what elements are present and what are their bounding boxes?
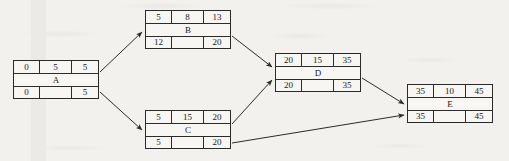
edge-a-to-b: [100, 32, 142, 72]
node-d-bottom-row: 20 35: [276, 80, 360, 91]
node-e-early-finish: 45: [466, 85, 492, 97]
node-e-late-start: 35: [408, 111, 434, 122]
node-b-late-start: 12: [146, 37, 172, 48]
node-a-late-finish: 5: [72, 87, 98, 98]
node-a-early-start: 0: [14, 61, 40, 73]
node-d-label-row: D: [276, 67, 360, 80]
node-e-bottom-row: 35 45: [408, 111, 492, 122]
node-d[interactable]: 20 15 35 D 20 35: [275, 53, 361, 92]
node-e-label: E: [408, 98, 492, 110]
node-a-label-row: A: [14, 74, 98, 87]
node-b-bottom-row: 12 20: [146, 37, 230, 48]
node-e-top-row: 35 10 45: [408, 85, 492, 98]
node-c-slack: [172, 137, 204, 148]
node-c-duration: 15: [172, 111, 204, 123]
node-e-duration: 10: [434, 85, 466, 97]
node-c-label-row: C: [146, 124, 230, 137]
node-c-early-start: 5: [146, 111, 172, 123]
node-d-top-row: 20 15 35: [276, 54, 360, 67]
node-c-late-finish: 20: [204, 137, 230, 148]
node-d-early-finish: 35: [334, 54, 360, 66]
node-b-duration: 8: [172, 11, 204, 23]
edge-c-to-e: [232, 115, 404, 143]
node-b-label: B: [146, 24, 230, 36]
node-b[interactable]: 5 8 13 B 12 20: [145, 10, 231, 49]
node-d-label: D: [276, 67, 360, 79]
node-d-slack: [302, 80, 334, 91]
node-d-duration: 15: [302, 54, 334, 66]
node-c-label: C: [146, 124, 230, 136]
node-b-late-finish: 20: [204, 37, 230, 48]
node-a-duration: 5: [40, 61, 72, 73]
node-a-label: A: [14, 74, 98, 86]
edge-c-to-d: [232, 80, 272, 124]
node-b-slack: [172, 37, 204, 48]
node-a-slack: [40, 87, 72, 98]
node-c-bottom-row: 5 20: [146, 137, 230, 148]
node-a-bottom-row: 0 5: [14, 87, 98, 98]
node-c-top-row: 5 15 20: [146, 111, 230, 124]
node-c-early-finish: 20: [204, 111, 230, 123]
node-e-slack: [434, 111, 466, 122]
node-e-late-finish: 45: [466, 111, 492, 122]
diagram-canvas: 0 5 5 A 0 5 5 8 13 B 12 20 5: [0, 0, 509, 161]
node-d-early-start: 20: [276, 54, 302, 66]
node-d-late-finish: 35: [334, 80, 360, 91]
node-e-early-start: 35: [408, 85, 434, 97]
node-b-early-finish: 13: [204, 11, 230, 23]
edge-a-to-c: [100, 92, 142, 130]
node-d-late-start: 20: [276, 80, 302, 91]
edge-b-to-d: [232, 36, 272, 67]
node-b-top-row: 5 8 13: [146, 11, 230, 24]
node-b-label-row: B: [146, 24, 230, 37]
node-c-late-start: 5: [146, 137, 172, 148]
node-a-late-start: 0: [14, 87, 40, 98]
node-e-label-row: E: [408, 98, 492, 111]
edge-d-to-e: [362, 78, 404, 104]
node-e[interactable]: 35 10 45 E 35 45: [407, 84, 493, 123]
node-b-early-start: 5: [146, 11, 172, 23]
node-a-top-row: 0 5 5: [14, 61, 98, 74]
node-a-early-finish: 5: [72, 61, 98, 73]
node-c[interactable]: 5 15 20 C 5 20: [145, 110, 231, 149]
node-a[interactable]: 0 5 5 A 0 5: [13, 60, 99, 99]
